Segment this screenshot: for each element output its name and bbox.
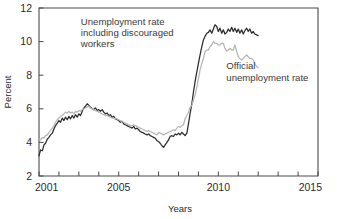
x-axis-ticks bbox=[39, 172, 318, 177]
y-axis-tick-labels: 24681012 bbox=[20, 2, 32, 182]
x-tick-label-2001: 2001 bbox=[35, 181, 59, 193]
x-tick-label-2015: 2015 bbox=[299, 181, 323, 193]
y-tick-label-10: 10 bbox=[20, 35, 32, 47]
data-series-group bbox=[39, 25, 258, 156]
y-tick-label-8: 8 bbox=[26, 69, 32, 81]
series-line-u6 bbox=[39, 25, 258, 156]
y-tick-label-12: 12 bbox=[20, 2, 32, 14]
chart-figure: 24681012 2001200520102015 Percent Years … bbox=[0, 0, 338, 219]
y-tick-label-4: 4 bbox=[26, 136, 32, 148]
official-annotation: Officialunemployment rate bbox=[226, 60, 308, 82]
x-axis-tick-labels: 2001200520102015 bbox=[35, 181, 322, 193]
official-annotation-line-1: Official bbox=[226, 60, 255, 71]
u6-annotation-line-1: Unemployment rate bbox=[81, 16, 165, 27]
u6-annotation-line-3: workers bbox=[80, 38, 115, 49]
x-axis-title: Years bbox=[168, 203, 192, 214]
x-tick-label-2005: 2005 bbox=[107, 181, 131, 193]
y-tick-label-2: 2 bbox=[26, 170, 32, 182]
official-annotation-line-2: unemployment rate bbox=[226, 72, 308, 83]
unemployment-chart: 24681012 2001200520102015 Percent Years … bbox=[0, 0, 338, 219]
u6-annotation: Unemployment rateincluding discouragedwo… bbox=[80, 16, 174, 49]
chart-annotations: Unemployment rateincluding discouragedwo… bbox=[80, 16, 309, 83]
y-tick-label-6: 6 bbox=[26, 102, 32, 114]
x-tick-label-2010: 2010 bbox=[207, 181, 231, 193]
series-line-u3 bbox=[39, 42, 258, 140]
u6-annotation-line-2: including discouraged bbox=[81, 27, 174, 38]
y-axis-title: Percent bbox=[2, 75, 13, 108]
